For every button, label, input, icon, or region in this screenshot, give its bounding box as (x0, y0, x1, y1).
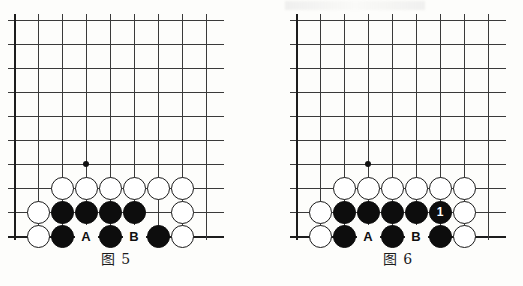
stone-white[interactable] (75, 177, 98, 200)
stone-black[interactable] (357, 201, 380, 224)
grid-line-horizontal (290, 140, 506, 141)
grid-line-horizontal (290, 20, 506, 21)
grid-line-vertical (206, 14, 207, 240)
grid-line-horizontal (290, 68, 506, 69)
stone-black[interactable] (51, 225, 74, 248)
stone-white[interactable] (51, 177, 74, 200)
stone-white[interactable] (333, 177, 356, 200)
figure-5-caption: 图 5 (8, 248, 224, 268)
board-point-label-a[interactable]: A (357, 225, 380, 248)
stone-white[interactable] (357, 177, 380, 200)
stone-white[interactable] (171, 177, 194, 200)
grid-line-horizontal (8, 164, 224, 165)
stone-white[interactable] (453, 201, 476, 224)
stone-white[interactable] (99, 177, 122, 200)
stone-black[interactable] (99, 225, 122, 248)
stone-white[interactable] (453, 225, 476, 248)
grid-line-horizontal (290, 164, 506, 165)
grid-line-vertical (296, 14, 298, 240)
stone-black[interactable] (381, 225, 404, 248)
stone-white[interactable] (381, 177, 404, 200)
stone-black[interactable] (333, 201, 356, 224)
figure-6: AB1 图 6 (290, 0, 523, 286)
grid-line-vertical (14, 14, 16, 240)
stone-white[interactable] (309, 201, 332, 224)
stone-white[interactable] (309, 225, 332, 248)
stone-white[interactable] (27, 201, 50, 224)
grid-line-vertical (158, 14, 159, 240)
star-point-marker (365, 161, 371, 167)
stone-white[interactable] (453, 177, 476, 200)
stone-black[interactable] (147, 225, 170, 248)
stone-white[interactable] (405, 177, 428, 200)
grid-line-horizontal (8, 92, 224, 93)
stone-white[interactable] (27, 225, 50, 248)
stone-white[interactable] (171, 201, 194, 224)
grid-line-vertical (488, 14, 489, 240)
grid-line-horizontal (8, 44, 224, 45)
stone-black[interactable] (381, 201, 404, 224)
grid-line-horizontal (8, 140, 224, 141)
grid-line-horizontal (8, 116, 224, 117)
go-board-figure-5[interactable]: AB (8, 14, 224, 240)
figure-6-caption: 图 6 (290, 248, 506, 268)
stone-black[interactable] (333, 225, 356, 248)
grid-line-horizontal (8, 20, 224, 21)
stone-white[interactable] (147, 177, 170, 200)
grid-line-horizontal (8, 68, 224, 69)
grid-line-horizontal (290, 116, 506, 117)
stone-white[interactable] (171, 225, 194, 248)
star-point-marker (83, 161, 89, 167)
stone-white[interactable] (429, 177, 452, 200)
stone-black[interactable] (75, 201, 98, 224)
stone-black[interactable] (51, 201, 74, 224)
board-point-label-a[interactable]: A (75, 225, 98, 248)
stone-white[interactable] (123, 177, 146, 200)
figure-5: AB 图 5 (8, 0, 258, 286)
go-board-figure-6[interactable]: AB1 (290, 14, 506, 240)
scanned-page: AB 图 5 AB1 图 6 (0, 0, 523, 286)
stone-black[interactable] (99, 201, 122, 224)
board-point-label-b[interactable]: B (405, 225, 428, 248)
stone-black[interactable] (405, 201, 428, 224)
stone-black[interactable] (429, 225, 452, 248)
stone-black[interactable] (123, 201, 146, 224)
board-point-label-b[interactable]: B (123, 225, 146, 248)
grid-line-horizontal (290, 92, 506, 93)
grid-line-horizontal (290, 44, 506, 45)
stone-black-move-1[interactable]: 1 (429, 201, 452, 224)
